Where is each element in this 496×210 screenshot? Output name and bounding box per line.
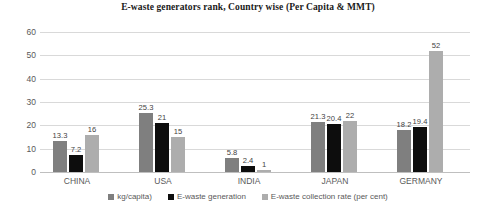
bar[interactable] (413, 127, 427, 172)
y-axis-tick-label: 30 (4, 98, 36, 107)
x-axis-line (40, 172, 470, 173)
y-axis-tick-label: 10 (4, 145, 36, 154)
x-axis-category-label: USA (118, 176, 208, 186)
y-axis-tick-label: 60 (4, 28, 36, 37)
bar-value-label: 15 (163, 128, 193, 136)
chart-title: E-waste generators rank, Country wise (P… (0, 2, 496, 12)
x-axis-category-label: JAPAN (290, 176, 380, 186)
chart-container: E-waste generators rank, Country wise (P… (0, 0, 496, 210)
legend-swatch-icon (168, 194, 174, 200)
legend-item[interactable]: E-waste generation (168, 192, 246, 201)
y-axis-tick-label: 20 (4, 121, 36, 130)
y-axis-tick-label: 40 (4, 75, 36, 84)
bar-group: 21.320.422JAPAN (298, 32, 384, 172)
bar[interactable] (397, 130, 411, 172)
x-axis-category-label: CHINA (32, 176, 122, 186)
legend-swatch-icon (108, 194, 114, 200)
bar[interactable] (311, 122, 325, 172)
y-axis-tick-labels: 0102030405060 (0, 32, 36, 172)
bar[interactable] (429, 51, 443, 172)
bar-value-label: 16 (77, 126, 107, 134)
legend-label: E-waste collection rate (per cent) (271, 192, 388, 201)
legend-swatch-icon (262, 194, 268, 200)
bar-group: 25.32115USA (126, 32, 212, 172)
x-axis-category-label: INDIA (204, 176, 294, 186)
bar[interactable] (327, 124, 341, 172)
bar-value-label: 21 (147, 114, 177, 122)
bar-group: 5.82.41INDIA (212, 32, 298, 172)
bar-value-label: 22 (335, 112, 365, 120)
bar-group: 18.219.452GERMANY (384, 32, 470, 172)
legend-item[interactable]: kg/capita) (108, 192, 152, 201)
bar[interactable] (85, 135, 99, 172)
bar[interactable] (257, 170, 271, 172)
bar-value-label: 1 (249, 161, 279, 169)
chart-legend: kg/capita)E-waste generationE-waste coll… (0, 192, 496, 201)
bar[interactable] (69, 155, 83, 172)
bar[interactable] (343, 121, 357, 172)
bar-group: 13.37.216CHINA (40, 32, 126, 172)
bar[interactable] (171, 137, 185, 172)
legend-item[interactable]: E-waste collection rate (per cent) (262, 192, 388, 201)
bar-value-label: 52 (421, 42, 451, 50)
plot-area: 13.37.216CHINA25.32115USA5.82.41INDIA21.… (40, 32, 470, 172)
bar-value-label: 13.3 (45, 132, 75, 140)
legend-label: kg/capita) (117, 192, 152, 201)
legend-label: E-waste generation (177, 192, 246, 201)
bar-value-label: 25.3 (131, 104, 161, 112)
x-axis-category-label: GERMANY (376, 176, 466, 186)
y-axis-tick-label: 50 (4, 51, 36, 60)
